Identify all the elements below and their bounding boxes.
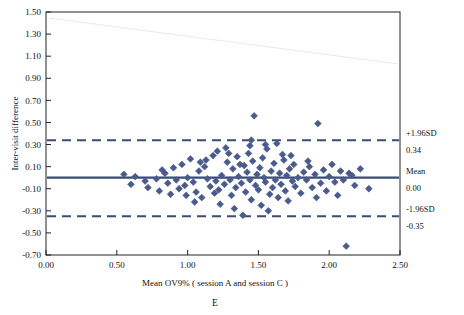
y-tick-label: -0.30 <box>22 206 41 216</box>
upper-loa-label-value: 0.34 <box>406 145 422 155</box>
mean-label-value: 0.00 <box>406 183 421 193</box>
mean-label: Mean <box>406 166 426 176</box>
y-tick-label: 1.30 <box>25 29 41 39</box>
y-tick-label: 0.50 <box>25 118 41 128</box>
x-tick-label: 2.50 <box>392 260 408 270</box>
x-tick-label: 1.00 <box>180 260 196 270</box>
y-tick-label: 0.10 <box>25 162 41 172</box>
panel-letter: E <box>212 298 218 308</box>
y-tick-label: -0.50 <box>22 228 41 238</box>
y-axis-title: Inter-visit difference <box>10 97 20 171</box>
lower-loa-label-value: -0.35 <box>406 221 424 231</box>
x-tick-label: 2.00 <box>321 260 337 270</box>
x-tick-label: 0.50 <box>109 260 125 270</box>
y-tick-label: -0.70 <box>22 250 41 260</box>
bland-altman-chart: 1.501.301.100.900.700.500.300.10-0.10-0.… <box>0 0 464 315</box>
x-tick-label: 1.50 <box>251 260 267 270</box>
y-tick-label: 1.50 <box>25 7 41 17</box>
lower-loa-label: -1.96SD <box>406 204 435 214</box>
y-tick-label: 0.90 <box>25 73 41 83</box>
y-tick-label: -0.10 <box>22 184 41 194</box>
chart-svg: 1.501.301.100.900.700.500.300.10-0.10-0.… <box>0 0 464 315</box>
x-axis-title: Mean OV9% ( session A and session C ) <box>142 278 288 288</box>
plot-frame <box>46 12 400 255</box>
y-tick-label: 0.70 <box>25 96 41 106</box>
y-tick-label: 0.30 <box>25 140 41 150</box>
y-tick-label: 1.10 <box>25 51 41 61</box>
x-tick-label: 0.00 <box>38 260 54 270</box>
upper-loa-label: +1.96SD <box>406 128 437 138</box>
